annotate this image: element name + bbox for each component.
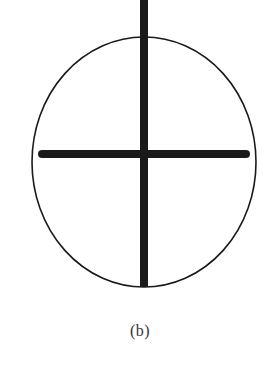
figure-caption: (b) (0, 322, 272, 340)
diagram-canvas (0, 0, 272, 375)
